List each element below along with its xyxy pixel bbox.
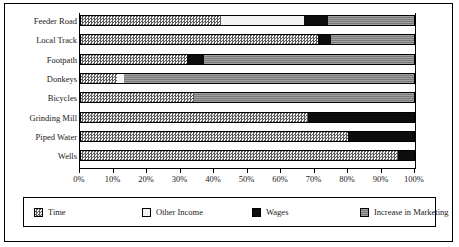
bar-segment — [398, 150, 415, 161]
bar-row — [80, 112, 415, 123]
category-label: Bicycles — [11, 93, 77, 103]
bar-segment — [117, 73, 124, 84]
legend-swatch-icon — [142, 208, 151, 217]
x-axis-tick-label: 100% — [394, 174, 434, 184]
x-axis-tick — [280, 169, 281, 173]
category-label: Grinding Mill — [11, 113, 77, 123]
x-axis-tick — [347, 169, 348, 173]
bar-segment — [328, 15, 415, 26]
category-label: Feeder Road — [11, 16, 77, 26]
legend-label: Other Income — [156, 207, 203, 217]
bar-segment — [124, 73, 415, 84]
bar-segment — [80, 92, 194, 103]
chart-legend: TimeOther IncomeWagesIncrease in Marketi… — [23, 197, 436, 227]
bar-segment — [80, 73, 117, 84]
x-axis-tick — [414, 169, 415, 173]
legend-label: Increase in Marketing — [374, 207, 449, 217]
bar-row — [80, 92, 415, 103]
bar-segment — [348, 131, 415, 142]
legend-item[interactable]: Increase in Marketing — [360, 207, 449, 217]
category-label: Wells — [11, 151, 77, 161]
bar-segment — [80, 54, 187, 65]
bar-segment — [80, 112, 308, 123]
bar-segment — [187, 54, 204, 65]
bar-segment — [204, 54, 415, 65]
bar-segment — [80, 150, 398, 161]
x-axis-tick — [314, 169, 315, 173]
bar-segment — [304, 15, 327, 26]
category-label: Footpath — [11, 55, 77, 65]
x-axis-tick — [79, 169, 80, 173]
x-axis-tick — [213, 169, 214, 173]
bar-row — [80, 73, 415, 84]
x-axis-tick — [113, 169, 114, 173]
legend-item[interactable]: Time — [34, 207, 66, 217]
legend-item[interactable]: Wages — [252, 207, 288, 217]
category-label: Piped Water — [11, 132, 77, 142]
chart-figure: Feeder RoadLocal TrackFootpathDonkeysBic… — [4, 3, 453, 242]
legend-label: Time — [48, 207, 66, 217]
bar-row — [80, 131, 415, 142]
bar-segment — [318, 34, 331, 45]
x-axis-tick — [180, 169, 181, 173]
category-label: Donkeys — [11, 74, 77, 84]
x-axis-line — [79, 168, 416, 169]
legend-label: Wages — [266, 207, 288, 217]
legend-swatch-icon — [34, 208, 43, 217]
legend-swatch-icon — [252, 208, 261, 217]
bar-segment — [80, 131, 348, 142]
category-label: Local Track — [11, 35, 77, 45]
x-axis-tick — [247, 169, 248, 173]
bar-row — [80, 15, 415, 26]
bar-row — [80, 34, 415, 45]
bar-segment — [80, 15, 221, 26]
bar-row — [80, 150, 415, 161]
bar-segment — [80, 34, 318, 45]
plot-area: 0%10%20%30%40%50%60%70%80%90%100% — [79, 13, 416, 168]
x-axis-tick — [146, 169, 147, 173]
legend-swatch-icon — [360, 208, 369, 217]
bar-segment — [221, 15, 305, 26]
bar-segment — [331, 34, 415, 45]
bar-segment — [194, 92, 415, 103]
plot-right-border — [415, 13, 416, 168]
bar-segment — [308, 112, 415, 123]
x-axis-tick — [381, 169, 382, 173]
legend-item[interactable]: Other Income — [142, 207, 203, 217]
y-axis-category-labels: Feeder RoadLocal TrackFootpathDonkeysBic… — [11, 13, 77, 168]
bar-row — [80, 54, 415, 65]
